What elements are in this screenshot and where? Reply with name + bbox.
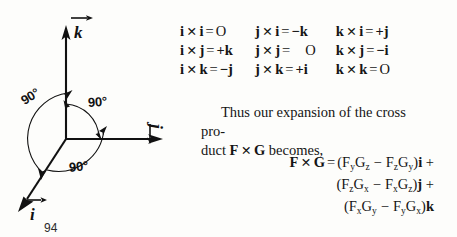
term-2-sub: x [364, 184, 369, 194]
term-2-base: G [354, 176, 364, 192]
equals-sign: = [279, 23, 291, 39]
term-4-base: G [398, 176, 408, 192]
equals-sign: = [364, 42, 376, 58]
equals-sign: = [283, 61, 295, 77]
cross-product-table: i✕i=O j✕i=−k k✕i=+j i✕j=+k j✕j=O [180, 23, 390, 80]
term-2-sub: z [365, 162, 369, 172]
equals-sign: = [367, 61, 379, 77]
angle-arc-i-j-arrow-end [99, 126, 107, 136]
cross-result: O [216, 23, 226, 39]
cross-operator-icon: ✕ [344, 44, 359, 58]
term-2-base: G [355, 154, 365, 170]
term-2-base: G [362, 198, 372, 214]
cross-operator-icon: ✕ [260, 44, 275, 58]
operand-right: i [200, 23, 204, 39]
angle-arc-k-i [28, 93, 68, 173]
cross-result: −k [291, 23, 307, 39]
cross-identity-cell: i✕k=−j [180, 61, 233, 80]
formula-row-j: (FzGx−FxGz)j + [180, 174, 440, 196]
formula-row-k: (FxGy−FyGx)k [180, 196, 440, 218]
row-trailer: + [422, 154, 434, 170]
term-3-base: F [393, 198, 401, 214]
equals-sign: = [208, 61, 220, 77]
equals-sign: = [363, 23, 375, 39]
operand-left: k [336, 61, 344, 77]
term-3-sub: z [394, 162, 398, 172]
operand-right: k [200, 61, 208, 77]
i-axis-line [27, 139, 66, 199]
table-row: i✕k=−j j✕k=+i k✕k=O [180, 61, 390, 80]
text-column: i✕i=O j✕i=−k k✕i=+j i✕j=+k j✕j=O [180, 0, 457, 237]
operand-left: j [255, 61, 260, 77]
equals-sign: = [280, 42, 292, 58]
equals-sign: = [204, 42, 216, 58]
textbook-page: k j i 90° 90° 90° 94 i✕i=O [0, 0, 457, 237]
cross-operator-icon: ✕ [298, 156, 313, 170]
cross-identity-cell: k✕k=O [316, 61, 390, 80]
j-axis-vector-accent-icon [147, 124, 154, 144]
cross-result: +k [217, 42, 233, 58]
operand-left: k [336, 23, 344, 39]
table-row: i✕j=+k j✕j=O k✕j=−i [180, 42, 390, 61]
angle-label-i-j: 90° [68, 158, 89, 175]
page-number: 94 [44, 221, 57, 235]
formula-row-i: F✕G=(FyGz−FzGy)i + [180, 152, 440, 174]
cross-operator-icon: ✕ [260, 63, 275, 77]
table-row: i✕i=O j✕i=−k k✕i=+j [180, 23, 390, 42]
term-2-sub: y [372, 206, 377, 216]
cross-result: O [305, 42, 315, 58]
cross-identity-cell: k✕j=−i [316, 42, 390, 61]
term-1-base: F [349, 198, 357, 214]
term-1-sub: x [357, 206, 362, 216]
term-1-sub: z [349, 184, 353, 194]
term-4-sub: y [409, 162, 414, 172]
i-axis-label: i [30, 206, 35, 223]
cross-operator-icon: ✕ [184, 63, 199, 77]
term-4-sub: x [416, 206, 421, 216]
i-axis-vector-accent-icon [27, 196, 47, 203]
cross-result: O [380, 61, 390, 77]
cross-identity-cell: i✕i=O [180, 23, 233, 42]
equals-sign: = [325, 154, 337, 170]
cross-operator-icon: ✕ [344, 25, 359, 39]
row-trailer: + [422, 176, 434, 192]
term-4-base: G [398, 154, 408, 170]
vector-g: G [314, 154, 325, 170]
cross-identity-cell: j✕k=+i [233, 61, 316, 80]
cross-operator-icon: ✕ [184, 44, 199, 58]
prose-line-1: Thus our expansion of the cross pro- [201, 104, 406, 139]
cross-identity-cell: j✕j=O [233, 42, 316, 61]
cross-operator-icon: ✕ [344, 63, 359, 77]
operand-left: j [255, 42, 260, 58]
unit-vector: k [426, 198, 434, 214]
term-3-base: F [386, 154, 394, 170]
cross-identity-cell: j✕i=−k [233, 23, 316, 42]
term-4-sub: z [408, 184, 412, 194]
angle-label-k-j: 90° [87, 94, 107, 110]
cross-identity-cell: i✕j=+k [180, 42, 233, 61]
term-4-base: G [406, 198, 416, 214]
cross-identity-cell: k✕i=+j [316, 23, 390, 42]
term-3-sub: x [393, 184, 398, 194]
term-1-base: F [342, 154, 350, 170]
vector-axes-diagram: k j i 90° 90° 90° 94 [0, 0, 180, 237]
k-axis-vector-accent-icon [71, 14, 93, 21]
cross-result: +i [295, 61, 307, 77]
minus-sign: − [370, 154, 386, 170]
operand-left: j [255, 23, 260, 39]
minus-sign: − [377, 198, 393, 214]
term-1-sub: y [350, 162, 355, 172]
cross-result: −j [220, 61, 233, 77]
vector-f: F [289, 154, 298, 170]
operand-left: k [336, 42, 344, 58]
term-3-base: F [385, 176, 393, 192]
k-axis-label: k [74, 24, 83, 41]
equals-sign: = [204, 23, 216, 39]
term-3-sub: y [401, 206, 406, 216]
cross-result: +j [376, 23, 389, 39]
cross-operator-icon: ✕ [184, 25, 199, 39]
cross-operator-icon: ✕ [260, 25, 275, 39]
cross-result: −i [376, 42, 388, 58]
cross-product-expansion-formula: F✕G=(FyGz−FzGy)i + (FzGx−FxGz)j + (FxGy−… [180, 152, 440, 218]
minus-sign: − [369, 176, 385, 192]
